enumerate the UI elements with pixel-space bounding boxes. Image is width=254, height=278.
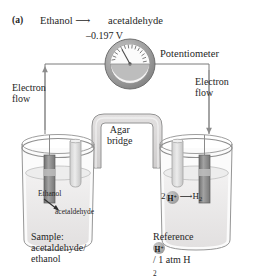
potentiometer-label: Potentiometer [160, 48, 219, 60]
electron-flow-left-line1: Electron [12, 82, 46, 93]
proton-icon: H+ [166, 191, 179, 204]
proton-icon-caption: H+ [153, 242, 165, 254]
agar-bridge-label: Agar bridge [107, 124, 133, 146]
reaction-reactant-text: Ethanol [40, 15, 73, 26]
left-cell-caption: Sample: acetaldehyde/ ethanol [31, 231, 86, 265]
cell-voltage-value: –0.197 V [86, 30, 123, 41]
potentiometer-gauge[interactable] [105, 39, 155, 89]
reaction-arrow-icon: ⟶ [75, 15, 90, 26]
hydrogen-coefficient: 2 [161, 191, 166, 201]
right-caption-line1: Reference [153, 231, 194, 242]
reaction-title-product: acetaldehyde [108, 15, 163, 27]
right-cell-caption: Reference H+ / 1 atm H2 [153, 231, 194, 278]
left-beaker-species-reactant: Ethanol [38, 190, 61, 198]
left-caption-line2: acetaldehyde/ [31, 242, 86, 253]
right-glass-tube [172, 141, 183, 187]
half-reaction-arrow-icon: ⟶ [179, 191, 193, 201]
electrochemical-cell-figure: (a) Ethanol ⟶ acetaldehyde –0.197 V Pote… [0, 0, 254, 278]
electron-flow-left-line2: flow [12, 93, 46, 104]
agar-label-line2: bridge [107, 135, 133, 146]
electron-flow-label-left: Electron flow [12, 82, 46, 104]
left-caption-line3: ethanol [31, 253, 86, 264]
hydrogen-product-subscript: 2 [199, 195, 202, 202]
left-caption-line1: Sample: [31, 231, 86, 242]
electron-flow-right-line1: Electron [195, 76, 229, 87]
proton-charge: + [173, 194, 176, 200]
electron-flow-right-line2: flow [195, 87, 229, 98]
panel-letter: (a) [12, 15, 23, 26]
hydrogen-half-reaction: 2H+⟶H2 [161, 191, 202, 204]
reaction-title-reactant: Ethanol ⟶ [40, 15, 90, 27]
proton-charge-caption: + [160, 245, 163, 251]
electron-flow-label-right: Electron flow [195, 76, 229, 98]
right-caption-line2: H+ / 1 atm H2 [153, 242, 194, 278]
agar-label-line1: Agar [107, 124, 133, 135]
left-beaker-species-product: acetaldehyde [55, 208, 94, 216]
left-glass-tube [70, 141, 81, 187]
reference-h2-subscript: 2 [153, 270, 157, 278]
reference-conditions: / 1 atm H [153, 254, 194, 265]
